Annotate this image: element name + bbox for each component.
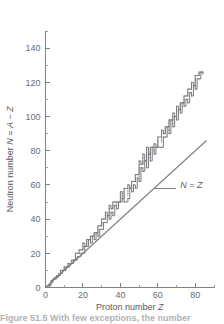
- nuclide-point: [198, 78, 199, 79]
- nuclide-point: [81, 249, 82, 250]
- nuclide-point: [135, 181, 136, 182]
- nuclide-point: [116, 205, 117, 206]
- nuclide-point: [172, 123, 173, 124]
- nuclide-point: [195, 85, 196, 86]
- nuclide-point: [139, 164, 140, 165]
- y-tick-label: 20: [30, 249, 40, 259]
- y-tick-label: 40: [30, 214, 40, 224]
- nuclide-point: [107, 215, 108, 216]
- nuclide-point: [146, 154, 147, 155]
- nuclide-point: [75, 258, 76, 259]
- x-tick-label: 80: [190, 290, 200, 300]
- nuclide-point: [124, 201, 125, 202]
- nuclide-point: [101, 222, 102, 223]
- nuclide-point: [127, 195, 128, 196]
- nuclide-point: [139, 172, 140, 173]
- nuclide-point: [135, 188, 136, 189]
- nuclide-point: [109, 215, 110, 216]
- nuclide-point: [169, 123, 170, 124]
- nuclide-point: [157, 142, 158, 143]
- nuclide-point: [140, 167, 141, 168]
- nuclide-point: [202, 71, 203, 72]
- nuclide-point: [112, 205, 113, 206]
- y-tick-label: 0: [35, 283, 40, 293]
- nuclide-point: [161, 133, 162, 134]
- nuclide-point: [146, 147, 147, 148]
- nuclide-point: [139, 171, 140, 172]
- nuclide-point: [157, 145, 158, 146]
- nuclide-point: [120, 200, 121, 201]
- nuclide-point: [127, 189, 128, 190]
- nuclide-point: [152, 147, 153, 148]
- nuclide-point: [60, 270, 61, 271]
- nuclide-point: [131, 186, 132, 187]
- nuclide-point: [140, 164, 141, 165]
- nuclide-point: [195, 82, 196, 83]
- nuclide-point: [90, 237, 91, 238]
- x-axis-ticks: [46, 283, 215, 288]
- x-tick-label: 40: [115, 290, 125, 300]
- nuclide-point: [195, 80, 196, 81]
- nuclide-point: [133, 181, 134, 182]
- nuclide-point: [67, 263, 68, 264]
- nuclide-point: [131, 181, 132, 182]
- nuclide-point: [183, 95, 184, 96]
- nuclide-point: [116, 208, 117, 209]
- nuclide-point: [180, 107, 181, 108]
- nuclide-point: [90, 236, 91, 237]
- nuclide-point: [155, 147, 156, 148]
- plot-svg: 020406080 020406080100120140 N = Z Proto…: [0, 0, 224, 324]
- nuclide-point: [150, 147, 151, 148]
- nuclide-point: [97, 236, 98, 237]
- nuclide-point: [191, 85, 192, 86]
- nuclide-point: [139, 176, 140, 177]
- nuclide-point: [144, 160, 145, 161]
- nuclide-point: [146, 155, 147, 156]
- nuclide-point: [110, 212, 111, 213]
- nuclide-point: [139, 169, 140, 170]
- nuclide-point: [142, 162, 143, 163]
- nuclide-point: [99, 229, 100, 230]
- nuclide-point: [101, 229, 102, 230]
- nuclide-point: [82, 246, 83, 247]
- nuclide-point: [52, 278, 53, 279]
- nuclide-point: [82, 249, 83, 250]
- figure-caption: Figure 51.5 With few exceptions, the num…: [0, 313, 224, 324]
- nuclide-point: [124, 193, 125, 194]
- nuclide-point: [169, 121, 170, 122]
- nuclide-point: [60, 272, 61, 273]
- nuclide-point: [148, 154, 149, 155]
- y-tick-label: 100: [25, 112, 40, 122]
- nuclide-point: [97, 231, 98, 232]
- nuclide-point: [66, 266, 67, 267]
- nuclide-point: [169, 133, 170, 134]
- nuclide-point: [97, 229, 98, 230]
- nuclide-point: [161, 142, 162, 143]
- nuclide-point: [146, 167, 147, 168]
- nuclide-point: [120, 198, 121, 199]
- nuclide-point: [150, 154, 151, 155]
- nuclide-point: [182, 102, 183, 103]
- nuclide-point: [75, 253, 76, 254]
- n-equals-z-label: N = Z: [180, 180, 203, 190]
- nuclide-point: [169, 126, 170, 127]
- nuclide-point: [71, 261, 72, 262]
- nuclide-point: [96, 232, 97, 233]
- nuclide-point: [101, 224, 102, 225]
- nuclide-point: [165, 130, 166, 131]
- nuclide-point: [112, 207, 113, 208]
- nuclide-point: [187, 94, 188, 95]
- nuclide-point: [77, 256, 78, 257]
- nuclide-point: [154, 147, 155, 148]
- nuclide-point: [82, 248, 83, 249]
- nuclide-point: [99, 225, 100, 226]
- nuclide-point: [90, 242, 91, 243]
- nuclide-point: [94, 236, 95, 237]
- nuclide-point: [176, 119, 177, 120]
- nuclide-point: [187, 102, 188, 103]
- nuclide-point: [180, 104, 181, 105]
- nuclide-point: [191, 87, 192, 88]
- nuclide-point: [79, 253, 80, 254]
- nuclide-point: [163, 136, 164, 137]
- nuclide-point: [109, 213, 110, 214]
